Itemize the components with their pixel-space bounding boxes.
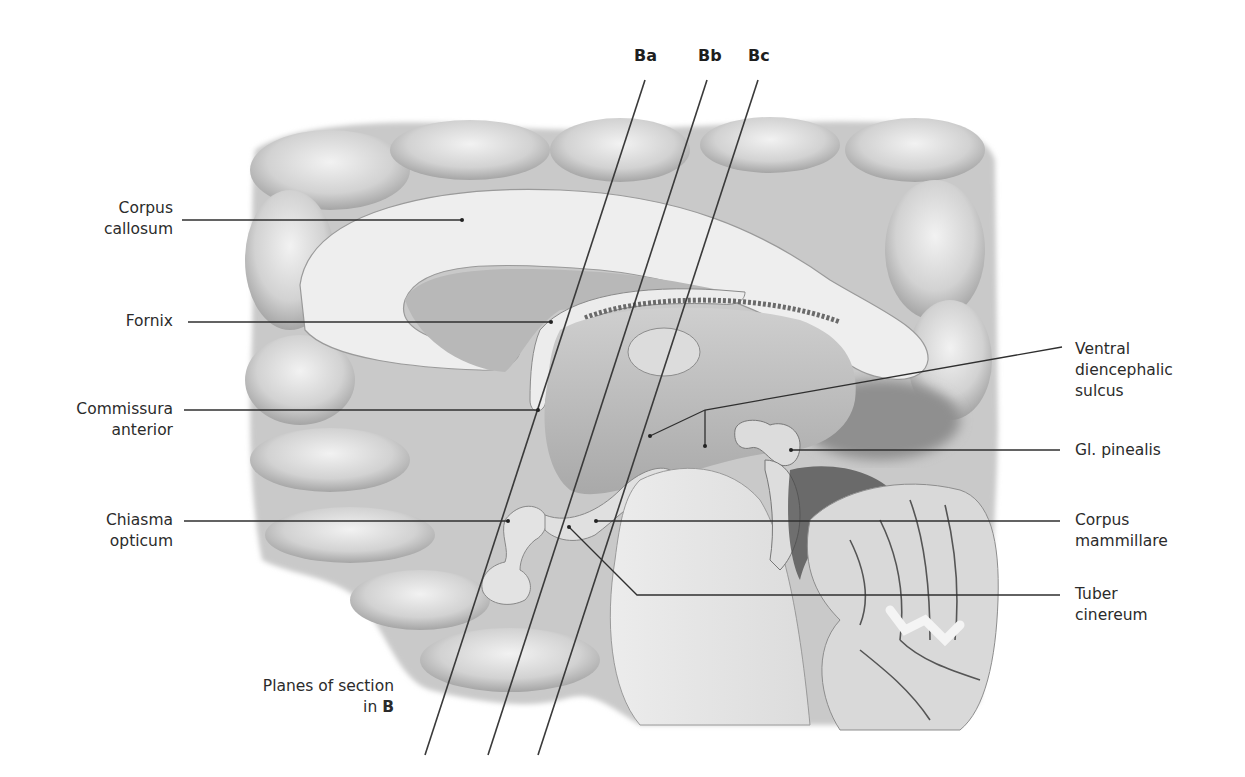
label-line: anterior — [76, 420, 173, 441]
label-chiasma-opticum: Chiasma opticum — [106, 510, 173, 552]
label-tuber-cinereum: Tuber cinereum — [1075, 584, 1148, 626]
label-line: Commissura — [76, 399, 173, 420]
label-line: callosum — [104, 219, 173, 240]
label-ventral-diencephalic-sulcus: Ventral diencephalic sulcus — [1075, 339, 1173, 402]
label-commissura-anterior: Commissura anterior — [76, 399, 173, 441]
label-fornix: Fornix — [126, 311, 173, 332]
brain-midsagittal-illustration — [0, 0, 1245, 777]
planes-of-section-caption: Planes of section in B — [263, 676, 394, 718]
label-line: Corpus — [104, 198, 173, 219]
label-line: cinereum — [1075, 605, 1148, 626]
label-corpus-callosum: Corpus callosum — [104, 198, 173, 240]
label-line: Tuber — [1075, 584, 1148, 605]
label-line: mammillare — [1075, 531, 1168, 552]
caption-bold-ref: B — [382, 698, 394, 716]
label-gl-pinealis: Gl. pinealis — [1075, 440, 1161, 461]
label-line: Fornix — [126, 311, 173, 332]
label-line: Gl. pinealis — [1075, 440, 1161, 461]
caption-line-2: in B — [263, 697, 394, 718]
label-line: Ventral — [1075, 339, 1173, 360]
caption-line-1: Planes of section — [263, 676, 394, 697]
label-line: diencephalic — [1075, 360, 1173, 381]
plane-tag-bb: Bb — [698, 46, 722, 65]
label-line: Chiasma — [106, 510, 173, 531]
label-corpus-mammillare: Corpus mammillare — [1075, 510, 1168, 552]
label-line: opticum — [106, 531, 173, 552]
plane-tag-ba: Ba — [634, 46, 657, 65]
caption-prefix: in — [363, 698, 382, 716]
plane-tag-bc: Bc — [748, 46, 770, 65]
label-line: sulcus — [1075, 381, 1173, 402]
label-line: Corpus — [1075, 510, 1168, 531]
